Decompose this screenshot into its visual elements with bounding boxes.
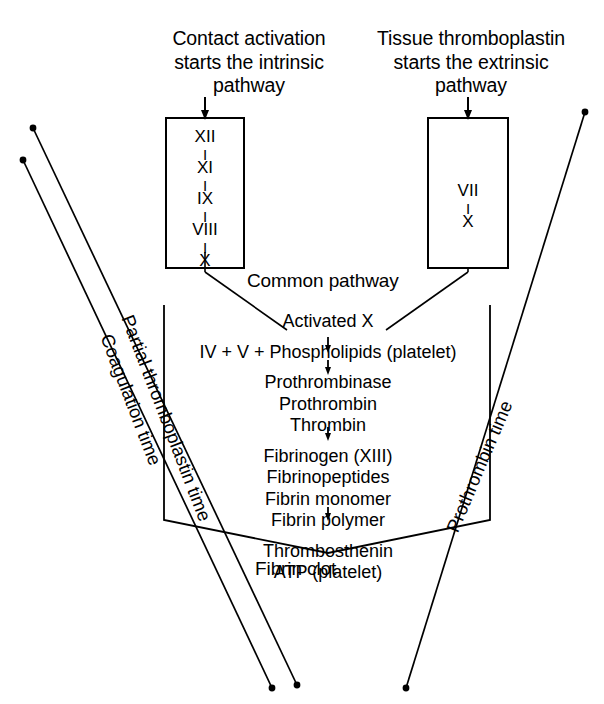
common-pathway-step-0: Activated X (152, 312, 504, 334)
common-pathway-step-4: Thrombin (152, 416, 504, 438)
common-pathway-step-list: Activated X IV + V + Phospholipids (plat… (152, 312, 504, 585)
extrinsic-factor-list: VII I X (438, 182, 498, 232)
intrinsic-pathway-header: Contact activation starts the intrinsic … (134, 27, 364, 98)
intrinsic-factor-list: XII I XI I IX I VIII I X (175, 128, 235, 271)
extrinsic-factor-0: VII (438, 182, 498, 201)
common-pathway-step-5: Fibrinogen (XIII) (152, 447, 504, 469)
coagulation-cascade-diagram: Contact activation starts the intrinsic … (0, 0, 604, 704)
intrinsic-factor-3: VIII (175, 221, 235, 240)
fibrin-clot-label: Fibrin clot (255, 558, 336, 580)
extrinsic-factor-1: X (438, 213, 498, 232)
partial-thromboplastin-time-line-start-dot (30, 125, 37, 132)
partial-thromboplastin-time-line-end-dot (294, 682, 301, 689)
intrinsic-factor-2: IX (175, 190, 235, 209)
intrinsic-factor-0: XII (175, 128, 235, 147)
common-pathway-title: Common pathway (247, 270, 399, 292)
coagulation-time-line-start-dot (20, 157, 27, 164)
common-pathway-step-6: Fibrinopeptides (152, 468, 504, 490)
intrinsic-factor-1: XI (175, 159, 235, 178)
common-pathway-step-3: Prothrombin (152, 395, 504, 417)
extrinsic-pathway-header: Tissue thromboplastin starts the extrins… (356, 27, 586, 98)
common-pathway-step-1: IV + V + Phospholipids (platelet) (152, 343, 504, 365)
prothrombin-time-line-start-dot (582, 109, 589, 116)
prothrombin-time-line-end-dot (403, 685, 410, 692)
common-pathway-step-2: Prothrombinase (152, 373, 504, 395)
intrinsic-factor-4: X (175, 252, 235, 271)
coagulation-time-line-end-dot (269, 685, 276, 692)
